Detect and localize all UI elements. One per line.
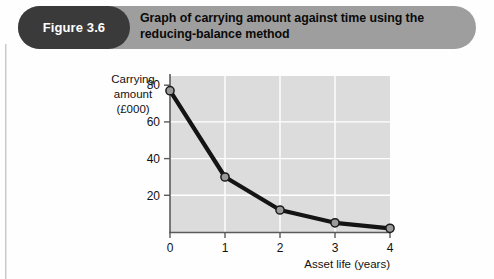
data-point-4	[386, 224, 394, 232]
figure-header: Figure 3.6 Graph of carrying amount agai…	[18, 6, 476, 49]
data-point-2	[276, 206, 284, 214]
x-tick-label-3: 3	[332, 241, 339, 255]
figure-number-badge: Figure 3.6	[18, 6, 130, 49]
x-tick-label-4: 4	[387, 241, 394, 255]
x-tick-label-1: 1	[222, 241, 229, 255]
y-tick-label-60: 60	[147, 115, 161, 129]
y-axis-label-line-2: amount	[114, 88, 153, 100]
chart-canvas: 80 60 40 20 0 1 2 3 4 Carrying amount (£…	[0, 52, 494, 279]
line-chart: 80 60 40 20 0 1 2 3 4 Carrying amount (£…	[0, 52, 494, 279]
x-axis-label: Asset life (years)	[304, 258, 390, 270]
data-point-1	[221, 173, 229, 181]
y-axis-label-line-1: Carrying	[111, 73, 154, 85]
x-tick-label-0: 0	[167, 241, 174, 255]
y-axis-ticks	[164, 85, 170, 195]
figure-number-label: Figure 3.6	[43, 20, 105, 35]
x-tick-label-2: 2	[277, 241, 284, 255]
y-tick-label-40: 40	[147, 152, 161, 166]
figure-page: Figure 3.6 Graph of carrying amount agai…	[0, 0, 494, 279]
data-point-3	[331, 219, 339, 227]
figure-title: Graph of carrying amount against time us…	[140, 11, 462, 42]
y-axis-label-line-3: (£000)	[116, 103, 149, 115]
y-axis-label: Carrying amount (£000)	[111, 73, 154, 115]
x-axis-ticks	[170, 233, 390, 239]
data-point-0	[166, 87, 174, 95]
y-tick-label-20: 20	[147, 189, 161, 203]
